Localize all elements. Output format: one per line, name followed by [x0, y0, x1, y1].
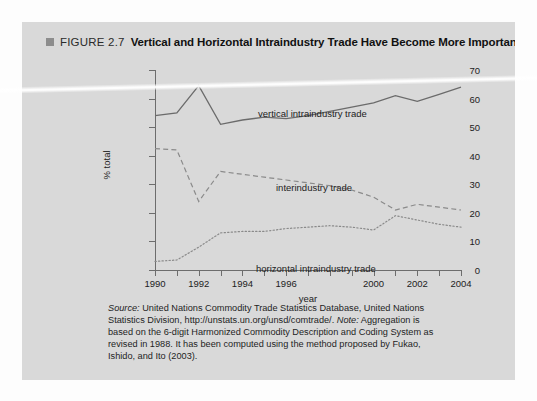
series-label-interindustry-trade: interindustry trade: [276, 182, 352, 193]
x-tick-mark: [199, 271, 200, 276]
series-label-horizontal-intraindustry-trade: horizontal intraindustry trade: [256, 263, 376, 274]
x-tick-mark: [221, 271, 222, 276]
x-tick-mark: [439, 271, 440, 276]
x-tick-label: 2000: [363, 278, 384, 289]
x-tick-mark: [177, 271, 178, 276]
series-line-interindustry-trade: [155, 149, 461, 210]
plot-lines: [155, 70, 461, 270]
x-tick-mark: [417, 271, 418, 276]
x-tick-mark: [155, 271, 156, 276]
x-tick-mark: [461, 271, 462, 276]
source-prefix: Source:: [108, 303, 140, 313]
x-tick-label: 2002: [407, 278, 428, 289]
series-label-vertical-intraindustry-trade: vertical intraindustry trade: [258, 108, 367, 119]
figure-notes: Source: United Nations Commodity Trade S…: [108, 302, 438, 362]
figure-title: Vertical and Horizontal Intraindustry Tr…: [131, 36, 515, 48]
note-prefix: Note:: [337, 315, 359, 325]
x-tick-mark: [242, 271, 243, 276]
figure-number-label: FIGURE 2.7: [60, 36, 125, 48]
x-tick-label: 2004: [450, 278, 471, 289]
y-axis-title: % total: [101, 150, 112, 179]
figure-panel: FIGURE 2.7 Vertical and Horizontal Intra…: [22, 22, 515, 380]
figure-header: FIGURE 2.7 Vertical and Horizontal Intra…: [46, 36, 515, 48]
square-marker-icon: [46, 38, 54, 46]
series-line-horizontal-intraindustry-trade: [155, 216, 461, 262]
x-tick-label: 1996: [276, 278, 297, 289]
chart-area: % total year 010203040506070 19901992199…: [108, 60, 480, 292]
x-tick-label: 1990: [144, 278, 165, 289]
x-tick-label: 1994: [232, 278, 253, 289]
x-tick-mark: [395, 271, 396, 276]
x-tick-label: 1992: [188, 278, 209, 289]
